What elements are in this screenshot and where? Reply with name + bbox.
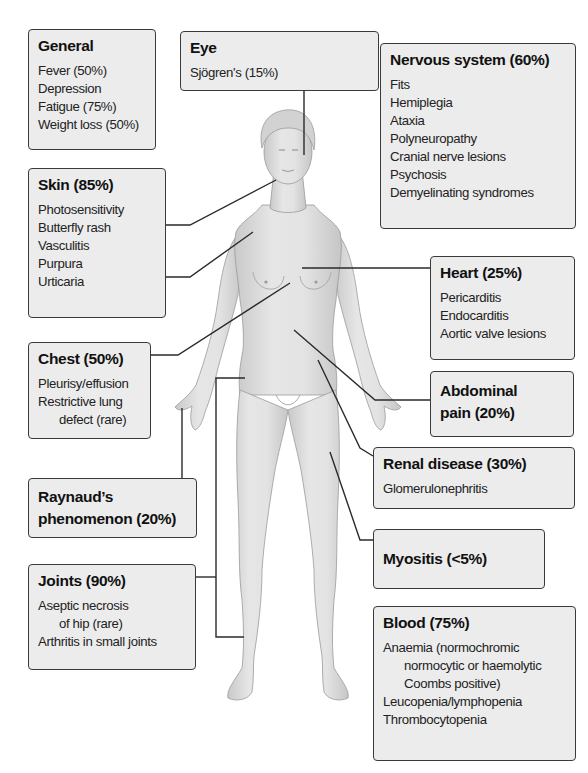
- nervous-system-title: Nervous system (60%): [390, 50, 567, 69]
- blood-item: normocytic or haemolytic: [383, 657, 567, 675]
- joints-item: Arthritis in small joints: [38, 633, 187, 651]
- skin-title: Skin (85%): [38, 175, 157, 194]
- renal-item: Glomerulonephritis: [383, 480, 566, 498]
- chest-title: Chest (50%): [38, 349, 142, 368]
- myositis-title: Myositis (<5%): [383, 549, 536, 568]
- general-item: Fatigue (75%): [38, 98, 147, 116]
- myositis-box: Myositis (<5%): [373, 529, 545, 589]
- heart-title: Heart (25%): [440, 263, 566, 282]
- eye-title: Eye: [190, 38, 370, 57]
- blood-box: Blood (75%) Anaemia (normochromic normoc…: [373, 606, 576, 761]
- nervous-item: Polyneuropathy: [390, 130, 567, 148]
- blood-title: Blood (75%): [383, 613, 567, 632]
- blood-item: Anaemia (normochromic: [383, 639, 567, 657]
- raynauds-box: Raynaud’s phenomenon (20%): [28, 478, 197, 538]
- general-title: General: [38, 36, 147, 55]
- joints-item: Aseptic necrosis: [38, 597, 187, 615]
- nervous-item: Cranial nerve lesions: [390, 148, 567, 166]
- joints-title: Joints (90%): [38, 571, 187, 590]
- nervous-item: Psychosis: [390, 166, 567, 184]
- chest-item: Restrictive lung: [38, 393, 142, 411]
- nervous-item: Fits: [390, 76, 567, 94]
- abdominal-title-line1: Abdominal: [440, 380, 565, 402]
- nervous-system-box: Nervous system (60%) Fits Hemiplegia Ata…: [380, 43, 576, 229]
- chest-box: Chest (50%) Pleurisy/effusion Restrictiv…: [28, 342, 151, 439]
- eye-box: Eye Sjögren's (15%): [180, 31, 379, 91]
- joints-box: Joints (90%) Aseptic necrosis of hip (ra…: [28, 564, 196, 670]
- heart-item: Endocarditis: [440, 307, 566, 325]
- chest-item: defect (rare): [38, 411, 142, 429]
- skin-item: Purpura: [38, 255, 157, 273]
- heart-item: Aortic valve lesions: [440, 325, 566, 343]
- renal-disease-box: Renal disease (30%) Glomerulonephritis: [373, 447, 575, 509]
- nervous-item: Ataxia: [390, 112, 567, 130]
- nervous-item: Hemiplegia: [390, 94, 567, 112]
- abdominal-title-line2: pain (20%): [440, 402, 565, 424]
- renal-title: Renal disease (30%): [383, 454, 566, 473]
- blood-item: Coombs positive): [383, 675, 567, 693]
- eye-item: Sjögren's (15%): [190, 64, 370, 82]
- raynauds-title-line2: phenomenon (20%): [38, 508, 188, 530]
- general-box: General Fever (50%) Depression Fatigue (…: [28, 29, 156, 150]
- raynauds-title-line1: Raynaud’s: [38, 486, 188, 508]
- heart-item: Pericarditis: [440, 289, 566, 307]
- heart-box: Heart (25%) Pericarditis Endocarditis Ao…: [430, 256, 575, 360]
- sle-features-diagram: General Fever (50%) Depression Fatigue (…: [0, 0, 588, 773]
- skin-item: Vasculitis: [38, 237, 157, 255]
- joints-item: of hip (rare): [38, 615, 187, 633]
- skin-box: Skin (85%) Photosensitivity Butterfly ra…: [28, 168, 166, 318]
- skin-item: Butterfly rash: [38, 219, 157, 237]
- blood-item: Leucopenia/lymphopenia: [383, 693, 567, 711]
- general-item: Weight loss (50%): [38, 116, 147, 134]
- abdominal-pain-box: Abdominal pain (20%): [430, 371, 574, 437]
- blood-item: Thrombocytopenia: [383, 711, 567, 729]
- skin-item: Photosensitivity: [38, 201, 157, 219]
- skin-item: Urticaria: [38, 273, 157, 291]
- general-item: Fever (50%): [38, 62, 147, 80]
- general-item: Depression: [38, 80, 147, 98]
- nervous-item: Demyelinating syndromes: [390, 184, 567, 202]
- chest-item: Pleurisy/effusion: [38, 375, 142, 393]
